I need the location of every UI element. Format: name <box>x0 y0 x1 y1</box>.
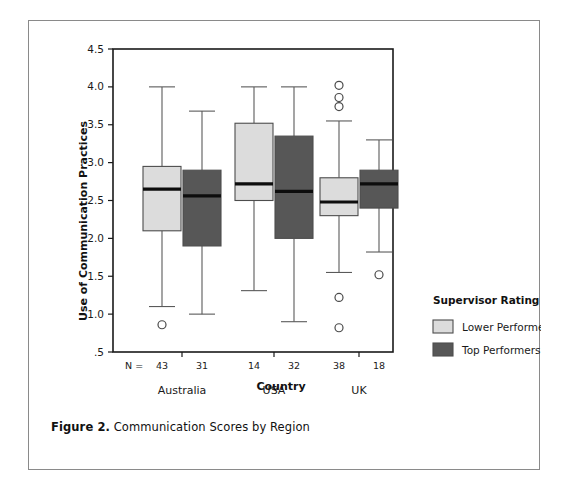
caption-text: Communication Scores by Region <box>110 420 310 434</box>
box-lower-performers <box>320 178 358 216</box>
box-top-performers <box>275 136 313 238</box>
x-axis: 4331Australia1432USA3818UKN = <box>125 352 385 397</box>
chart-legend: Supervisor RatingLower PerformersTop Per… <box>433 294 541 356</box>
n-value-label: 31 <box>196 360 208 371</box>
outlier-point <box>335 103 343 111</box>
n-value-label: 14 <box>248 360 260 371</box>
legend-entry-label: Lower Performers <box>462 321 541 333</box>
box-top-performers <box>183 170 221 246</box>
legend-title: Supervisor Rating <box>433 294 539 306</box>
figure-card: 4.54.03.53.02.52.01.51.0.5 4331Australia… <box>28 20 540 470</box>
n-value-label: 38 <box>333 360 345 371</box>
legend-entry-label: Top Performers <box>461 344 541 356</box>
box-top-performers <box>360 170 398 208</box>
x-category-label: Australia <box>158 384 207 397</box>
legend-swatch-0 <box>433 320 453 333</box>
y-axis: 4.54.03.53.02.52.01.51.0.5 <box>87 43 113 358</box>
y-tick-label: 4.5 <box>87 43 104 55</box>
n-value-label: 32 <box>288 360 300 371</box>
outlier-point <box>335 81 343 89</box>
outlier-point <box>335 293 343 301</box>
box-lower-performers <box>235 123 273 200</box>
box-plot-series <box>143 81 398 331</box>
boxplot-chart: 4.54.03.53.02.52.01.51.0.5 4331Australia… <box>29 21 541 401</box>
x-category-label: UK <box>351 384 367 397</box>
box-lower-performers <box>143 166 181 230</box>
n-prefix-label: N = <box>125 360 143 371</box>
outlier-point <box>375 271 383 279</box>
outlier-point <box>335 93 343 101</box>
y-tick-label: 4.0 <box>87 80 104 92</box>
y-axis-title: Use of Communication Practices <box>77 120 90 321</box>
y-tick-label: .5 <box>94 346 104 358</box>
chart-svg: 4.54.03.53.02.52.01.51.0.5 4331Australia… <box>29 21 541 401</box>
x-axis-title: Country <box>256 380 305 393</box>
legend-swatch-1 <box>433 343 453 356</box>
outlier-point <box>335 324 343 332</box>
n-value-label: 18 <box>373 360 385 371</box>
outlier-point <box>158 321 166 329</box>
n-value-label: 43 <box>156 360 168 371</box>
figure-caption: Figure 2. Communication Scores by Region <box>51 420 310 434</box>
caption-label: Figure 2. <box>51 420 110 434</box>
